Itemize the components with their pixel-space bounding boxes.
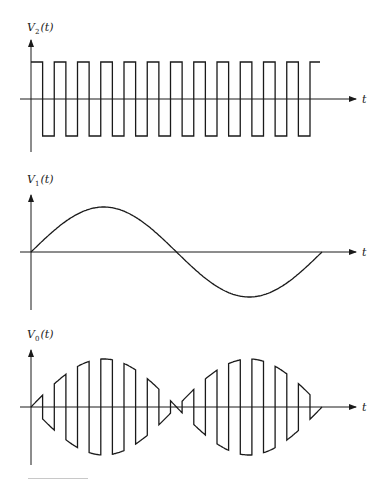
figure-caption-cropped bbox=[28, 478, 88, 479]
x-axis-label: t bbox=[362, 246, 367, 259]
y-axis-label: V2(t) bbox=[27, 21, 53, 36]
waveform-figure: V2(t) t V1(t) t V0(t) t bbox=[0, 0, 385, 482]
panel-product-wave: V0(t) t bbox=[20, 328, 367, 465]
panel-sine-wave: V1(t) t bbox=[20, 173, 367, 310]
y-axis-label: V1(t) bbox=[27, 173, 53, 188]
panel-square-wave: V2(t) t bbox=[20, 21, 367, 152]
y-axis-label: V0(t) bbox=[27, 328, 53, 343]
x-axis-label: t bbox=[362, 93, 367, 106]
x-axis-label: t bbox=[362, 401, 367, 414]
